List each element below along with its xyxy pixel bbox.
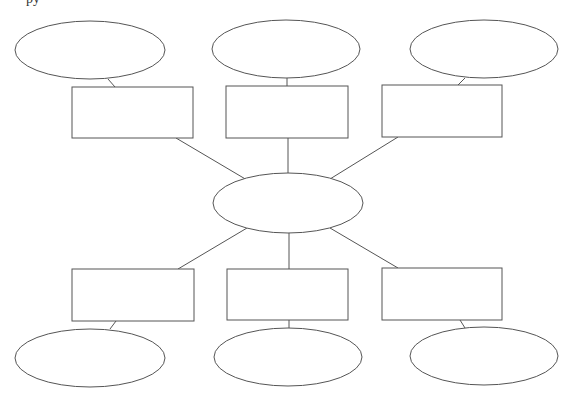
bottom-right-ellipse	[410, 327, 558, 385]
edge-center-to-bottom-left	[178, 228, 247, 269]
edge-top-right-leaf	[458, 78, 465, 85]
bottom-middle-rectangle	[227, 269, 348, 320]
edge-bottom-right-leaf	[460, 320, 465, 328]
edge-bottom-left-leaf	[110, 321, 116, 329]
spider-diagram	[0, 0, 571, 406]
edge-top-left-leaf	[108, 79, 115, 87]
top-right-ellipse	[410, 20, 558, 78]
top-right-rectangle	[382, 85, 502, 137]
top-left-ellipse	[15, 21, 165, 79]
bottom-left-ellipse	[15, 329, 165, 387]
center-ellipse	[213, 173, 363, 233]
bottom-left-rectangle	[72, 269, 194, 321]
top-middle-ellipse	[212, 20, 360, 78]
top-left-rectangle	[72, 87, 193, 138]
top-middle-rectangle	[226, 86, 348, 138]
edge-center-to-top-right	[330, 137, 398, 179]
diagram-nodes	[15, 20, 558, 387]
bottom-middle-ellipse	[214, 328, 362, 386]
bottom-right-rectangle	[382, 268, 502, 320]
edge-center-to-bottom-right	[330, 228, 398, 268]
edge-center-to-top-left	[176, 138, 247, 180]
